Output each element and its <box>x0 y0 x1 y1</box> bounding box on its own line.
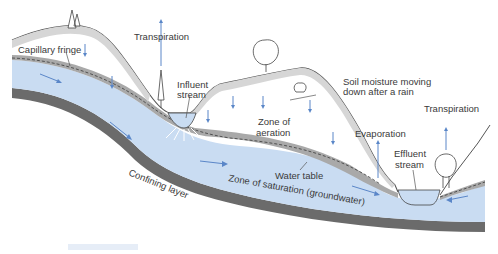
groundwater-diagram: Capillary fringe Transpiration Influent … <box>0 0 498 254</box>
figure-caption-faded <box>68 244 138 250</box>
label-transpiration-right: Transpiration <box>424 103 479 114</box>
tree-icon <box>253 40 278 72</box>
label-effluent-stream-2: stream <box>395 159 424 170</box>
tree-icon <box>435 154 456 188</box>
shrub-icon <box>294 83 306 92</box>
tree-icon <box>68 10 80 28</box>
pine-tree-icon <box>158 70 164 108</box>
label-capillary-fringe: Capillary fringe <box>18 44 81 55</box>
label-effluent-stream-1: Effluent <box>394 148 426 159</box>
label-evaporation: Evaporation <box>355 128 406 139</box>
label-water-table: Water table <box>275 170 323 181</box>
leader-soil-moisture <box>290 95 316 100</box>
leader-effluent <box>413 170 416 190</box>
label-influent-stream-2: stream <box>177 89 206 100</box>
label-transpiration-left: Transpiration <box>134 31 189 42</box>
label-zone-aeration-2: aeration <box>256 127 290 138</box>
label-soil-moisture-2: down after a rain <box>343 86 414 97</box>
label-zone-aeration-1: Zone of <box>258 116 291 127</box>
